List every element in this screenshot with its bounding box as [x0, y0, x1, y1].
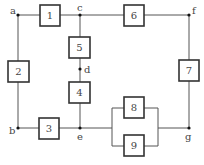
node-label: e — [77, 131, 83, 142]
reliability-block-diagram: 1 2 3 4 5 6 7 8 9 a b c — [0, 0, 204, 165]
component-2: 2 — [8, 61, 29, 82]
component-label: 6 — [131, 10, 137, 21]
component-9: 9 — [124, 135, 144, 156]
component-8: 8 — [124, 97, 144, 118]
node-a: a — [10, 5, 20, 17]
component-1: 1 — [40, 5, 60, 26]
node-label: c — [77, 2, 83, 13]
component-label: 2 — [15, 66, 21, 77]
component-label: 7 — [186, 65, 192, 76]
node-g: g — [185, 126, 192, 142]
component-label: 4 — [76, 87, 82, 98]
node-b: b — [9, 125, 20, 136]
node-c: c — [77, 2, 83, 17]
node-e: e — [77, 126, 83, 142]
node-label: a — [10, 5, 16, 16]
component-label: 9 — [131, 140, 137, 151]
node-label: g — [185, 131, 192, 142]
component-label: 3 — [46, 123, 52, 134]
component-3: 3 — [39, 118, 59, 139]
node-label: d — [84, 64, 91, 75]
component-7: 7 — [179, 60, 199, 81]
component-label: 1 — [47, 10, 53, 21]
node-label: f — [192, 5, 197, 16]
node-f: f — [187, 5, 197, 17]
component-4: 4 — [69, 82, 90, 103]
node-label: b — [9, 125, 15, 136]
component-5: 5 — [69, 37, 90, 58]
component-label: 8 — [131, 102, 137, 113]
component-label: 5 — [76, 42, 82, 53]
component-6: 6 — [124, 5, 144, 26]
